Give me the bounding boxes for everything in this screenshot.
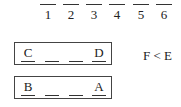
slot-2: 2 bbox=[63, 4, 79, 22]
cell-c: C bbox=[21, 46, 35, 62]
cell-a: A bbox=[92, 80, 106, 96]
slot-1: 1 bbox=[40, 4, 56, 22]
constraint-clue: F < E bbox=[143, 49, 172, 63]
blank-cell bbox=[45, 80, 59, 96]
blank-cell bbox=[69, 46, 83, 62]
slot-4: 4 bbox=[109, 4, 125, 22]
slot-3: 3 bbox=[86, 4, 102, 22]
cell-b: B bbox=[21, 80, 35, 96]
cell-d: D bbox=[92, 46, 106, 62]
slot-6: 6 bbox=[156, 4, 172, 22]
arrangement-box-1: C D bbox=[14, 42, 112, 65]
arrangement-box-2: B A bbox=[14, 76, 112, 99]
slot-5: 5 bbox=[133, 4, 149, 22]
blank-cell bbox=[69, 80, 83, 96]
blank-cell bbox=[45, 46, 59, 62]
